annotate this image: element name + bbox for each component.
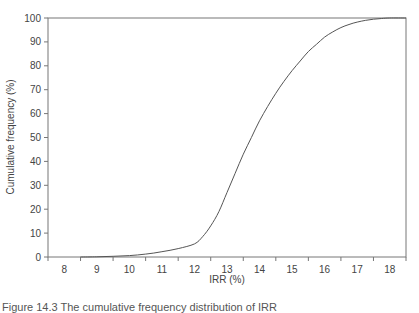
- y-tick-label: 20: [30, 204, 42, 215]
- y-axis-title: Cumulative frequency (%): [5, 79, 16, 194]
- y-tick-label: 70: [30, 84, 42, 95]
- y-tick-label: 10: [30, 228, 42, 239]
- y-tick-label: 60: [30, 108, 42, 119]
- y-axis: 0102030405060708090100: [24, 13, 48, 263]
- x-tick-label: 14: [254, 264, 266, 275]
- x-tick-label: 17: [352, 264, 364, 275]
- y-tick-label: 0: [35, 252, 41, 263]
- x-tick-label: 16: [319, 264, 331, 275]
- y-tick-label: 80: [30, 60, 42, 71]
- plot-frame: [48, 18, 406, 257]
- figure-caption: Figure 14.3 The cumulative frequency dis…: [2, 301, 277, 313]
- y-tick-label: 30: [30, 180, 42, 191]
- x-tick-label: 11: [157, 264, 168, 275]
- x-axis: 89101112131415161718: [48, 257, 406, 275]
- cumulative-frequency-chart: 0102030405060708090100 89101112131415161…: [0, 0, 419, 300]
- x-tick-label: 15: [287, 264, 299, 275]
- x-axis-title: IRR (%): [209, 274, 245, 285]
- cumulative-curve: [81, 18, 407, 257]
- x-tick-label: 8: [61, 264, 67, 275]
- x-tick-label: 12: [189, 264, 201, 275]
- y-tick-label: 100: [24, 13, 41, 24]
- x-tick-label: 10: [124, 264, 136, 275]
- x-tick-label: 18: [384, 264, 396, 275]
- y-tick-label: 50: [30, 132, 42, 143]
- y-tick-label: 40: [30, 156, 42, 167]
- y-tick-label: 90: [30, 36, 42, 47]
- x-tick-label: 9: [94, 264, 100, 275]
